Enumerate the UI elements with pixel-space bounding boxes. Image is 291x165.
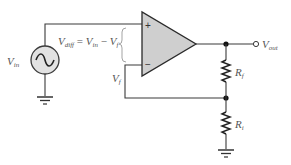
vdiff-equation: Vdiff = Vin − Vf — [58, 35, 119, 49]
circuit-diagram: Vin Vdiff = Vin − Vf Vf + − Vout Rf Ri — [0, 0, 291, 165]
resistor-ri-icon — [222, 112, 230, 134]
op-amp: + − — [142, 12, 196, 76]
vout-label: Vout — [262, 38, 279, 52]
resistor-rf-icon — [222, 60, 230, 82]
minus-sign: − — [145, 59, 151, 70]
ri-label: Ri — [234, 118, 244, 132]
ac-voltage-source — [31, 46, 59, 74]
output-terminal-icon — [253, 41, 258, 46]
ground-icon — [218, 150, 234, 157]
ground-icon — [37, 97, 53, 104]
brace-icon — [119, 28, 126, 62]
vf-label: Vf — [112, 72, 122, 86]
rf-label: Rf — [234, 66, 245, 80]
vin-label: Vin — [7, 55, 20, 69]
plus-sign: + — [145, 20, 151, 31]
feedback-wire — [125, 65, 226, 98]
